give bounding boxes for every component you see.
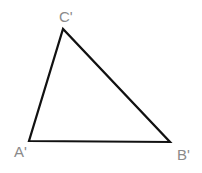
triangle-diagram: A' B' C' [0, 0, 202, 173]
vertex-label-c: C' [59, 8, 73, 25]
vertex-label-b: B' [177, 146, 190, 163]
vertex-label-a: A' [14, 143, 27, 160]
triangle-abc [29, 29, 170, 142]
